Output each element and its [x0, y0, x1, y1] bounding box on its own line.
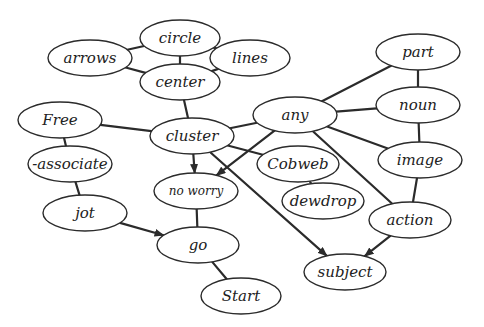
edge-cluster-any: [230, 123, 257, 129]
node-label: noun: [399, 96, 437, 114]
node-label: image: [397, 151, 444, 169]
edge-arrows-center: [126, 68, 146, 73]
node-part: part: [376, 34, 460, 70]
edge-action-subject: [365, 236, 391, 256]
mind-map-canvas: circlearrowslinescenterpartanynounFreecl…: [0, 0, 484, 327]
edge-any-noun: [336, 108, 376, 111]
node-image: image: [378, 142, 462, 178]
edge-free-associate: [64, 138, 66, 146]
edge-free-cluster: [100, 125, 151, 131]
node-free: Free: [18, 102, 102, 138]
node-layer: circlearrowslinescenterpartanynounFreecl…: [18, 20, 462, 314]
edge-go-start: [212, 262, 227, 279]
node-arrows: arrows: [48, 40, 132, 76]
node-label: arrows: [64, 49, 117, 67]
mind-map-diagram: circlearrowslinescenterpartanynounFreecl…: [0, 0, 484, 327]
node-action: action: [369, 202, 451, 238]
node-label: lines: [232, 49, 268, 67]
edge-lines-center: [212, 69, 218, 71]
node-noun: noun: [376, 87, 460, 123]
node-start: Start: [201, 278, 281, 314]
node-associate: -associate: [28, 146, 112, 182]
edge-noworry-go: [197, 209, 198, 227]
node-label: any: [281, 106, 309, 124]
node-label: dewdrop: [290, 192, 357, 210]
node-dewdrop: dewdrop: [282, 183, 364, 219]
node-cluster: cluster: [150, 118, 234, 154]
node-label: Start: [222, 287, 261, 305]
node-label: part: [402, 43, 435, 61]
node-label: -associate: [32, 155, 108, 173]
node-center: center: [140, 64, 220, 100]
node-cobweb: Cobweb: [257, 146, 339, 182]
edge-cluster-noworry: [193, 154, 194, 173]
node-any: any: [253, 97, 337, 133]
node-go: go: [157, 227, 239, 263]
node-noworry: no worry: [154, 173, 238, 209]
edge-any-image: [327, 127, 388, 149]
node-label: action: [387, 211, 434, 229]
node-jot: jot: [43, 195, 127, 231]
node-label: circle: [159, 29, 202, 47]
edge-center-cluster: [184, 100, 188, 118]
node-label: Cobweb: [267, 155, 328, 173]
node-label: jot: [72, 204, 96, 222]
edge-jot-go: [120, 223, 164, 235]
node-circle: circle: [140, 20, 220, 56]
edge-image-action: [413, 178, 417, 202]
edge-layer: [64, 46, 419, 279]
node-subject: subject: [304, 254, 386, 290]
node-label: no worry: [169, 184, 224, 198]
edge-noun-image: [419, 123, 420, 142]
node-label: subject: [318, 263, 374, 281]
node-label: cluster: [166, 127, 219, 145]
node-label: center: [155, 73, 205, 91]
node-label: Free: [41, 111, 77, 129]
node-lines: lines: [210, 40, 290, 76]
node-label: go: [189, 236, 208, 254]
edge-associate-jot: [75, 182, 79, 195]
edge-circle-arrows: [127, 46, 144, 50]
